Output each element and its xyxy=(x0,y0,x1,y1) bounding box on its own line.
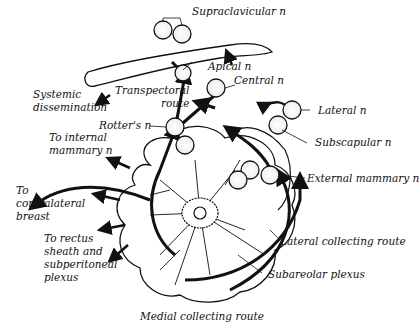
label-apical: Apical n xyxy=(208,60,251,73)
label-contralateral-breast: To contralateral breast xyxy=(16,184,85,223)
lateral-node xyxy=(283,101,301,119)
label-rectus-sheath: To rectus sheath and subperitoneal plexu… xyxy=(44,232,117,284)
apical-node xyxy=(175,65,191,81)
label-subareolar-plexus: Subareolar plexus xyxy=(268,268,365,281)
label-transpectoral-route: Transpectoral route xyxy=(115,84,189,110)
rotters-node-1 xyxy=(166,118,184,136)
label-lateral-collecting-route: Lateral collecting route xyxy=(280,235,406,248)
label-external-mammary: External mammary n xyxy=(307,172,419,185)
label-systemic-dissemination: Systemic dissemination xyxy=(33,88,107,114)
external-mammary-node xyxy=(261,166,279,184)
label-central: Central n xyxy=(234,74,284,87)
supraclavicular-node-1 xyxy=(154,21,172,39)
label-supraclavicular: Supraclavicular n xyxy=(192,5,286,18)
label-lateral: Lateral n xyxy=(318,104,366,117)
rotters-node-2 xyxy=(176,136,194,154)
supraclavicular-node-2 xyxy=(173,25,191,43)
pectoral-node-2 xyxy=(229,171,247,189)
label-internal-mammary: To internal mammary n xyxy=(49,131,112,157)
label-subscapular: Subscapular n xyxy=(315,136,391,149)
central-node xyxy=(207,79,225,97)
label-medial-collecting-route: Medial collecting route xyxy=(140,310,264,323)
